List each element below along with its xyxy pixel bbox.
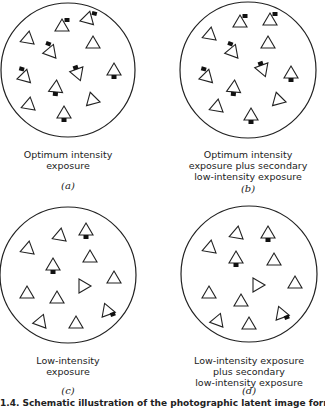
latent-image-speck-icon — [62, 118, 67, 122]
exposed-grain-icon — [229, 251, 243, 267]
latent-image-speck-icon — [243, 14, 248, 18]
latent-image-speck-icon — [249, 120, 254, 124]
exposed-grain-icon — [42, 41, 60, 58]
latent-image-speck-icon — [65, 18, 70, 22]
grain-icon — [50, 291, 64, 303]
exposed-grain-icon — [253, 59, 272, 79]
grain-icon — [83, 250, 97, 262]
grain-icon — [267, 253, 281, 265]
exposed-grain-icon — [16, 66, 33, 82]
exposed-grain-icon — [55, 18, 70, 31]
exposed-grain-icon — [284, 66, 298, 82]
exposed-grain-icon — [233, 14, 248, 27]
figure-caption: 1.4. Schematic illustration of the photo… — [0, 398, 325, 408]
exposed-grain-icon — [68, 63, 87, 83]
panel-c-circle — [0, 207, 136, 343]
grain-icon — [209, 98, 225, 112]
exposed-grain-icon — [263, 12, 278, 25]
latent-image-speck-icon — [53, 92, 58, 96]
grain-icon — [229, 225, 245, 239]
grain-icon — [202, 26, 218, 40]
panel-d-circle — [181, 206, 317, 342]
grain-icon — [83, 90, 100, 105]
exposed-grain-icon — [107, 63, 121, 79]
exposed-grain-icon — [198, 66, 215, 82]
panel-c-subfigure-label: (c) — [48, 385, 88, 396]
grain-icon — [242, 317, 256, 329]
exposed-grain-icon — [261, 226, 275, 242]
exposed-grain-icon — [244, 108, 258, 124]
grain-icon — [20, 286, 34, 298]
exposed-grain-icon — [80, 8, 97, 24]
panel-b-circle — [180, 2, 316, 138]
latent-image-speck-icon — [201, 66, 207, 71]
panel-b-label: Optimum intensity exposure plus secondar… — [188, 149, 308, 182]
exposed-grain-icon — [79, 223, 93, 239]
grain-icon — [69, 316, 83, 328]
grain-icon — [79, 279, 91, 293]
exposed-grain-icon — [57, 106, 71, 122]
latent-image-speck-icon — [19, 66, 25, 71]
latent-image-speck-icon — [273, 12, 278, 16]
grain-icon — [234, 294, 248, 306]
latent-image-speck-icon — [227, 41, 233, 46]
grain-icon — [269, 90, 286, 105]
exposed-grain-icon — [48, 79, 63, 96]
panel-a-label: Optimum intensity exposure — [8, 149, 128, 171]
grain-icon — [202, 286, 216, 298]
panel-d-label: Low-intensity exposure plus secondary lo… — [183, 355, 315, 388]
latent-image-speck-icon — [84, 235, 89, 239]
exposed-grain-icon — [46, 258, 60, 274]
grain-icon — [86, 36, 100, 48]
grain-icon — [20, 240, 36, 254]
latent-image-speck-icon — [45, 41, 51, 46]
panel-d-subfigure-label: (d) — [229, 385, 269, 396]
panel-a-subfigure-label: (a) — [48, 180, 88, 191]
latent-image-speck-icon — [112, 75, 117, 79]
panel-a-circle — [1, 3, 135, 137]
grain-icon — [210, 311, 227, 327]
grain-icon — [202, 239, 218, 253]
exposed-grain-icon — [226, 79, 241, 96]
latent-image-speck-icon — [51, 270, 56, 274]
grain-icon — [20, 30, 36, 44]
exposed-grain-icon — [98, 301, 116, 320]
grain-icon — [52, 227, 68, 241]
grain-icon — [253, 278, 265, 292]
exposed-grain-icon — [272, 304, 290, 323]
latent-image-speck-icon — [91, 11, 97, 16]
latent-image-speck-icon — [234, 263, 239, 267]
latent-image-speck-icon — [289, 78, 294, 82]
grain-icon — [107, 271, 121, 283]
panel-c-label: Low-intensity exposure — [8, 355, 128, 377]
grain-icon — [288, 276, 302, 288]
grain-icon — [261, 36, 275, 48]
latent-image-speck-icon — [231, 92, 236, 96]
grain-icon — [33, 312, 50, 328]
latent-image-speck-icon — [266, 238, 271, 242]
panel-b-subfigure-label: (b) — [228, 183, 268, 194]
exposed-grain-icon — [224, 41, 242, 58]
grain-icon — [21, 96, 37, 110]
